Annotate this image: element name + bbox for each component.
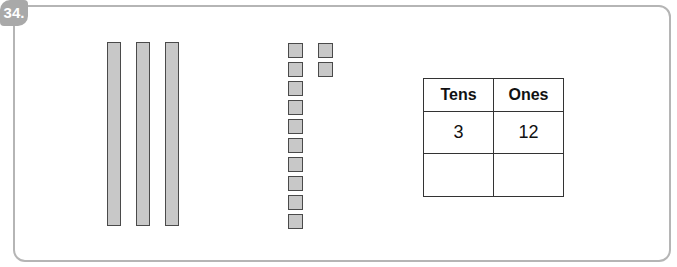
- ones-cube: [288, 62, 303, 77]
- cell-ones-value: 12: [494, 112, 564, 154]
- ones-cube: [288, 157, 303, 172]
- answer-cell-tens[interactable]: [424, 154, 494, 197]
- ones-cube: [288, 43, 303, 58]
- ones-cube: [318, 43, 333, 58]
- ones-cube: [288, 100, 303, 115]
- ones-cube: [288, 195, 303, 210]
- ones-cube: [288, 214, 303, 229]
- problem-number-badge: 34.: [0, 0, 28, 26]
- header-tens: Tens: [424, 79, 494, 112]
- tens-rod: [165, 42, 179, 226]
- tens-rod: [107, 42, 121, 226]
- place-value-table: Tens Ones 3 12: [423, 78, 564, 197]
- ones-cube: [288, 138, 303, 153]
- ones-cube: [288, 119, 303, 134]
- answer-cell-ones[interactable]: [494, 154, 564, 197]
- cell-tens-value: 3: [424, 112, 494, 154]
- tens-rod: [136, 42, 150, 226]
- ones-cube: [288, 176, 303, 191]
- ones-cube: [288, 81, 303, 96]
- header-ones: Ones: [494, 79, 564, 112]
- ones-cube: [318, 62, 333, 77]
